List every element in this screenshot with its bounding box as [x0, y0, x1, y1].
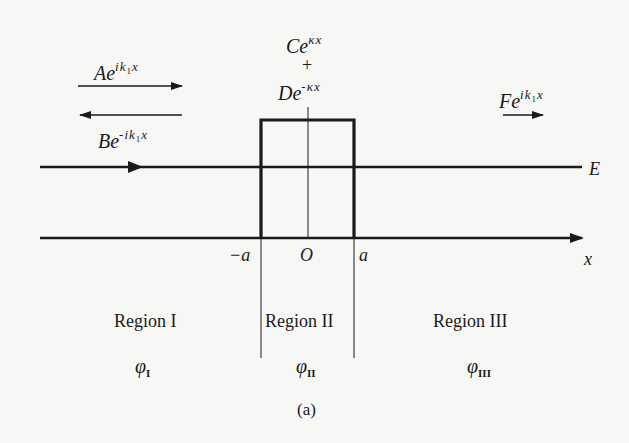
phi-1-label: φI [135, 356, 150, 379]
region-2-label: Region II [265, 312, 333, 330]
x-axis-label: x [584, 250, 592, 268]
region-1-label: Region I [114, 312, 177, 330]
inside-decaying-label: De-κx [278, 80, 321, 103]
inside-growing-label: Ceκx [286, 33, 322, 56]
energy-label: E [589, 160, 600, 178]
region-3-label: Region III [433, 312, 507, 330]
transmitted-wave-label: Feik1x [499, 88, 544, 111]
tick-origin: O [300, 246, 313, 264]
reflected-wave-label: Be-ik1x [98, 128, 148, 151]
plus-sign: + [302, 56, 312, 74]
tick-minus-a: −a [229, 246, 250, 264]
phi-2-label: φII [296, 356, 316, 379]
energy-line-arrow-icon [128, 161, 143, 173]
tick-a: a [359, 246, 368, 264]
figure-caption: (a) [297, 401, 316, 418]
phi-3-label: φIII [467, 356, 491, 379]
incident-wave-label: Aeik1x [94, 60, 139, 83]
